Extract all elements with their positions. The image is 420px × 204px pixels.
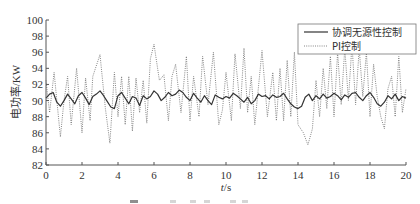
power-chart: 828486889092949698100 02468101214161820 … — [0, 0, 420, 204]
legend: 协调无源性控制 PI控制 — [298, 24, 416, 54]
y-tick-label: 82 — [32, 159, 43, 171]
x-tick-label: 18 — [365, 169, 377, 181]
y-tick-label: 88 — [32, 111, 44, 123]
x-tick-label: 0 — [43, 169, 49, 181]
y-tick-label: 84 — [32, 143, 44, 155]
y-tick-label: 92 — [32, 78, 43, 90]
y-tick-label: 90 — [32, 95, 44, 107]
y-tick-label: 86 — [32, 127, 44, 139]
x-tick-label: 12 — [257, 169, 268, 181]
x-tick-label: 14 — [293, 169, 305, 181]
series-pi-control — [46, 44, 406, 145]
x-tick-label: 10 — [221, 169, 233, 181]
x-tick-label: 16 — [329, 169, 341, 181]
x-tick-label: 6 — [151, 169, 157, 181]
x-tick-label: 20 — [401, 169, 413, 181]
x-axis-label: t/s — [221, 181, 231, 193]
figure-caption-cutoff — [130, 197, 290, 204]
plot-area — [46, 44, 406, 145]
legend-label-pi: PI控制 — [332, 40, 361, 52]
y-tick-label: 100 — [27, 14, 44, 26]
y-tick-label: 98 — [32, 30, 44, 42]
x-tick-label: 4 — [115, 169, 121, 181]
y-tick-label: 96 — [32, 46, 44, 58]
y-axis-label: 电功率/KW — [9, 64, 22, 119]
x-tick-label: 8 — [187, 169, 193, 181]
legend-label-passivity: 协调无源性控制 — [332, 26, 402, 38]
y-tick-label: 94 — [32, 62, 44, 74]
series-passivity-control — [46, 90, 406, 109]
x-tick-label: 2 — [79, 169, 85, 181]
